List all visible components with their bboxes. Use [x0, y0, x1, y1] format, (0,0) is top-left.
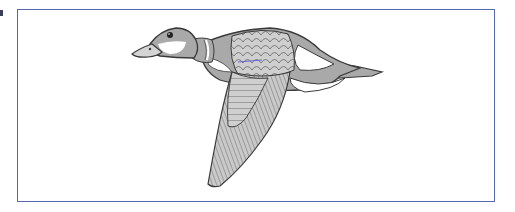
back-feathers [231, 30, 294, 79]
nostril [149, 48, 151, 50]
duck-eye [167, 32, 173, 38]
duck-illustration [0, 0, 515, 212]
